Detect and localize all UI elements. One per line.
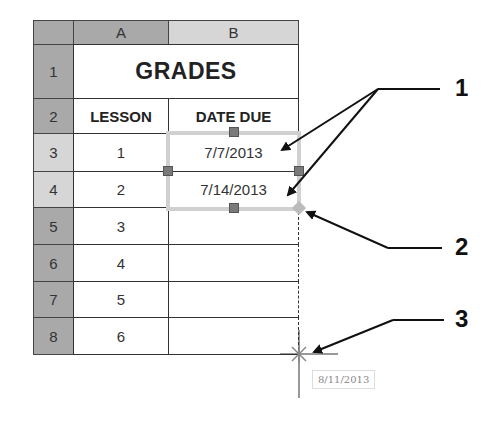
callout-arrows [0,0,504,421]
callout-label-3: 3 [455,305,468,333]
callout-label-1: 1 [455,74,468,102]
callout-label-2: 2 [455,233,468,261]
